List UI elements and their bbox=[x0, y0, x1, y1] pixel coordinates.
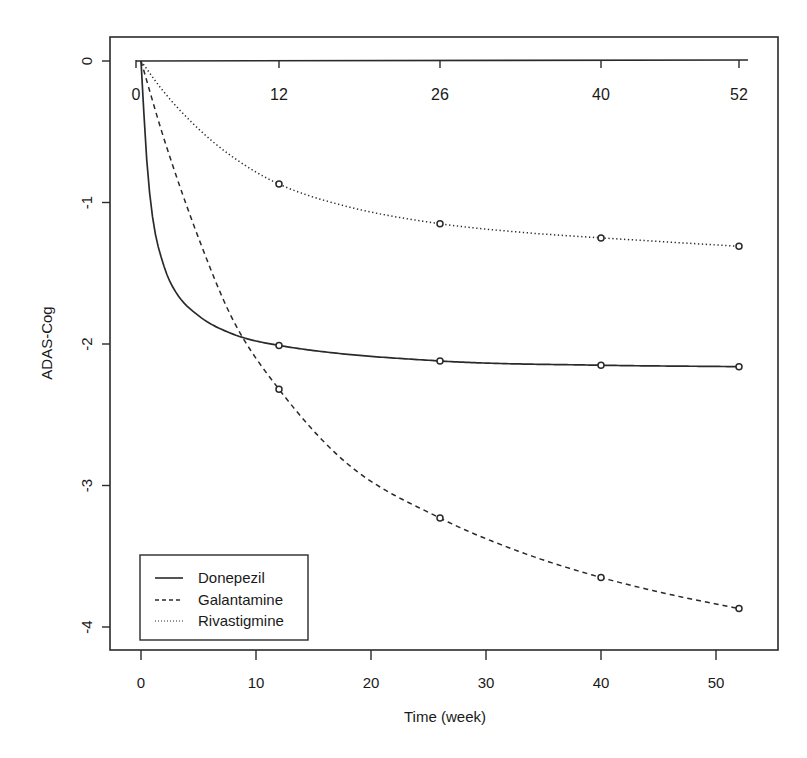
marker-rivastigmine bbox=[437, 221, 443, 227]
legend: Donepezil Galantamine Rivastigmine bbox=[140, 555, 308, 640]
x-axis-label: Time (week) bbox=[404, 708, 486, 725]
legend-label-donepezil: Donepezil bbox=[198, 569, 265, 586]
marker-galantamine bbox=[736, 606, 742, 612]
marker-rivastigmine bbox=[276, 181, 282, 187]
y-tick-label: 0 bbox=[78, 57, 95, 65]
marker-rivastigmine bbox=[598, 235, 604, 241]
marker-rivastigmine bbox=[736, 243, 742, 249]
top-axis-line bbox=[136, 60, 748, 61]
legend-label-galantamine: Galantamine bbox=[198, 591, 283, 608]
y-tick-label: -3 bbox=[78, 479, 95, 492]
y-axis-label: ADAS-Cog bbox=[38, 306, 55, 379]
top-tick-label: 12 bbox=[270, 86, 288, 103]
marker-donepezil bbox=[437, 358, 443, 364]
x-tick-label: 50 bbox=[708, 674, 725, 691]
marker-donepezil bbox=[736, 364, 742, 370]
marker-galantamine bbox=[437, 515, 443, 521]
top-tick-label: 0 bbox=[132, 86, 141, 103]
y-tick-label: -4 bbox=[78, 620, 95, 633]
y-axis: 0-1-2-3-4 bbox=[78, 57, 110, 634]
x-tick-label: 30 bbox=[478, 674, 495, 691]
marker-donepezil bbox=[276, 342, 282, 348]
x-tick-label: 40 bbox=[593, 674, 610, 691]
curve-donepezil bbox=[141, 61, 739, 367]
marker-galantamine bbox=[276, 386, 282, 392]
curve-galantamine bbox=[141, 61, 739, 609]
top-tick-label: 52 bbox=[730, 86, 748, 103]
y-tick-label: -1 bbox=[78, 196, 95, 209]
y-tick-label: -2 bbox=[78, 337, 95, 350]
marker-galantamine bbox=[598, 574, 604, 580]
x-tick-label: 20 bbox=[363, 674, 380, 691]
legend-label-rivastigmine: Rivastigmine bbox=[198, 612, 284, 629]
top-axis: 012264052 bbox=[132, 60, 748, 103]
line-chart: 012264052 0-1-2-3-4 ADAS-Cog 01020304050… bbox=[0, 0, 807, 758]
marker-donepezil bbox=[598, 362, 604, 368]
x-tick-label: 0 bbox=[137, 674, 145, 691]
top-tick-label: 40 bbox=[592, 86, 610, 103]
top-tick-label: 26 bbox=[431, 86, 449, 103]
series-curves bbox=[141, 61, 739, 609]
x-axis: 01020304050 bbox=[137, 650, 725, 691]
x-tick-label: 10 bbox=[248, 674, 265, 691]
